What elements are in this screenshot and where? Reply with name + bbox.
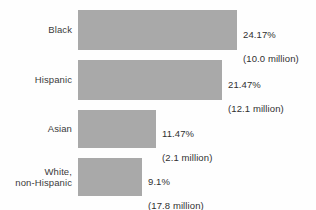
bar-track: 21.47% (12.1 million) (72, 60, 316, 100)
percent-value: 11.47% (162, 128, 194, 139)
category-label: Asian (0, 123, 72, 135)
bar-fill (78, 10, 237, 50)
bar-chart: Black 24.17% (10.0 million) Hispanic 21.… (0, 0, 316, 210)
value-label: 11.47% (2.1 million) (162, 116, 212, 164)
percent-value: 24.17% (243, 29, 276, 40)
bar-fill (78, 110, 156, 148)
bar-row: Black 24.17% (10.0 million) (0, 10, 316, 50)
count-value: (17.8 million) (148, 200, 204, 210)
category-label: Hispanic (0, 74, 72, 86)
bar-row: White, non-Hispanic 9.1% (17.8 million) (0, 158, 316, 196)
bar-track: 11.47% (2.1 million) (72, 110, 316, 148)
value-label: 24.17% (10.0 million) (243, 17, 299, 65)
bar-fill (78, 60, 222, 100)
category-label: White, non-Hispanic (0, 166, 72, 189)
bar-row: Hispanic 21.47% (12.1 million) (0, 60, 316, 100)
percent-value: 9.1% (148, 176, 170, 187)
bar-row: Asian 11.47% (2.1 million) (0, 110, 316, 148)
value-label: 21.47% (12.1 million) (228, 67, 284, 115)
percent-value: 21.47% (228, 79, 261, 90)
bar-fill (78, 158, 142, 196)
value-label: 9.1% (17.8 million) (148, 164, 204, 210)
category-label: Black (0, 24, 72, 36)
bar-track: 9.1% (17.8 million) (72, 158, 316, 196)
bar-track: 24.17% (10.0 million) (72, 10, 316, 50)
